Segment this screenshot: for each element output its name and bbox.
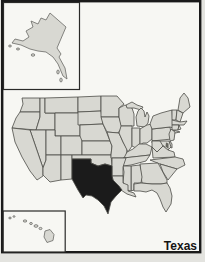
state-kansas [82,141,112,155]
state-montana [45,97,78,113]
state-north-dakota [78,96,101,112]
alaska-island-dot [60,78,62,82]
hawaii-island-dot [34,225,38,228]
state-washington [20,98,40,112]
hawaii-inset-box [3,211,65,252]
hawaii-island-dot [23,220,27,222]
usa-map-graphic: Texas [0,0,205,262]
alaska-island-dot [57,70,59,74]
state-arizona [43,155,61,182]
state-south-dakota [78,111,103,125]
state-wyoming [55,113,80,136]
state-name-label: Texas [164,239,197,253]
hawaii-island-dot [39,227,42,229]
alaska-island-dot [31,54,35,56]
hawaii-island-dot [30,223,33,225]
alaska-island-dot [16,48,19,50]
texas-locator-map-card: Texas [0,0,205,262]
alaska-island-dot [9,45,12,47]
state-new-mexico [61,155,72,180]
state-colorado [61,136,82,155]
hawaii-island-dot [13,216,15,218]
hawaii-island-dot [9,217,12,219]
